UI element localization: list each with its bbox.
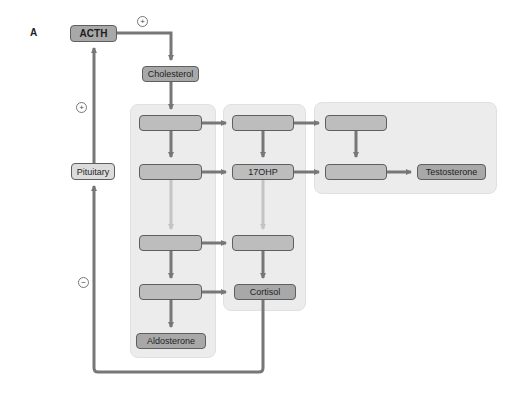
pathway-node-c2-r3 [232,235,294,251]
figure-panel-label: A [30,27,37,38]
stimulation-sign-pituitary: + [76,102,87,113]
pathway-node-c3-r1 [325,115,387,131]
cholesterol-node: Cholesterol [142,66,199,82]
pathway-node-c1-r1 [139,115,202,131]
stimulation-sign-acth: + [137,16,148,27]
pathway-node-c3-r2 [325,164,387,180]
pathway-arrows [0,0,512,398]
pituitary-node: Pituitary [71,163,115,180]
pathway-node-c1-r4 [139,284,202,300]
acth-node: ACTH [70,25,117,42]
testosterone-node: Testosterone [417,164,486,180]
cortisol-node: Cortisol [234,284,296,300]
inhibition-sign-cortisol: − [78,277,89,288]
pathway-node-c1-r3 [139,235,202,251]
17ohp-node: 17OHP [232,164,294,180]
pathway-node-c1-r2 [139,164,202,180]
pathway-node-c2-r1 [232,115,294,131]
aldosterone-node: Aldosterone [136,333,206,349]
